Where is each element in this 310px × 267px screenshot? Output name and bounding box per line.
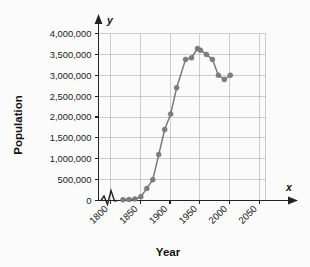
x-tick-label: 1900 [147, 203, 170, 226]
y-tick-label: 2,500,000 [50, 91, 92, 102]
data-point [162, 127, 167, 132]
y-tick-label: 1,000,000 [50, 153, 92, 164]
x-axis-arrowhead [288, 197, 298, 205]
x-axis-variable-label: x [285, 181, 293, 193]
axis-break-zigzag-icon [101, 191, 118, 205]
y-tick-label: 3,500,000 [50, 49, 92, 60]
chart-canvas: 0500,0001,000,0001,500,0002,000,0002,500… [0, 0, 310, 267]
data-point [216, 73, 221, 78]
population-line-chart: 0500,0001,000,0001,500,0002,000,0002,500… [0, 0, 310, 267]
y-axis-arrowhead [95, 14, 103, 24]
y-axis-title: Population [12, 95, 24, 154]
data-point [204, 52, 209, 57]
data-point [168, 112, 173, 117]
y-tick-label: 2,000,000 [50, 111, 92, 122]
data-point [156, 152, 161, 157]
data-point [144, 186, 149, 191]
population-data-line [123, 49, 230, 200]
y-tick-label: 4,000,000 [50, 28, 92, 39]
data-point [189, 55, 194, 60]
horizontal-gridlines [99, 34, 266, 180]
x-tick-label: 1850 [117, 203, 140, 226]
y-tick-label: 3,000,000 [50, 70, 92, 81]
x-tick-label: 2000 [206, 203, 229, 226]
data-point [198, 48, 203, 53]
data-point [132, 197, 137, 202]
data-point [228, 73, 233, 78]
x-tick-label: 1800 [87, 203, 110, 226]
data-point [120, 197, 125, 202]
x-axis-tick-labels: 180018501900195020002050 [87, 203, 259, 226]
data-point [174, 85, 179, 90]
y-axis-variable-label: y [106, 14, 114, 26]
data-point [150, 177, 155, 182]
data-point [222, 77, 227, 82]
y-tick-label: 1,500,000 [50, 132, 92, 143]
x-axis-title: Year [156, 246, 181, 258]
data-point [210, 57, 215, 62]
data-point [183, 57, 188, 62]
x-tick-label: 2050 [236, 203, 259, 226]
data-point [126, 197, 131, 202]
y-tick-label: 500,000 [58, 174, 92, 185]
y-axis-tick-labels: 0500,0001,000,0001,500,0002,000,0002,500… [50, 28, 92, 206]
data-point [138, 194, 143, 199]
x-tick-label: 1950 [176, 203, 199, 226]
y-tick-label: 0 [86, 195, 91, 206]
axes [95, 14, 298, 204]
